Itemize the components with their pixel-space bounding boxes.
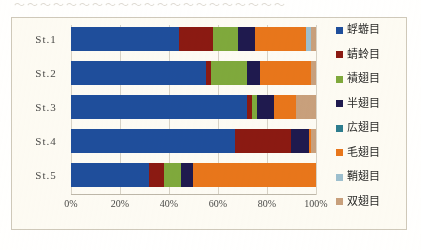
bar-segment bbox=[211, 61, 248, 85]
legend-item[interactable]: 半翅目 bbox=[336, 97, 380, 111]
stacked-bar-st-2 bbox=[71, 61, 316, 85]
plot-area bbox=[71, 25, 316, 195]
x-axis-labels: 0%20%40%60%80%100% bbox=[71, 198, 316, 214]
bar-row bbox=[71, 61, 316, 85]
bar-segment bbox=[274, 95, 296, 119]
bar-segment bbox=[291, 129, 308, 153]
bar-segment bbox=[193, 163, 316, 187]
bar-row bbox=[71, 129, 316, 153]
bar-segment bbox=[311, 27, 316, 51]
legend-item[interactable]: 蜻蛉目 bbox=[336, 48, 380, 62]
bar-segment bbox=[247, 61, 259, 85]
y-axis-labels: St.1St.2St.3St.4St.5 bbox=[20, 25, 72, 195]
y-axis-label-st-2: St.2 bbox=[20, 61, 72, 85]
x-axis-tick-40: 40% bbox=[160, 198, 178, 209]
bar-segment bbox=[260, 61, 311, 85]
legend-swatch-icon bbox=[336, 125, 343, 132]
legend-item[interactable]: 広翅目 bbox=[336, 121, 380, 135]
legend-label: 半翅目 bbox=[347, 98, 380, 110]
bar-segment bbox=[296, 95, 316, 119]
bar-segment bbox=[181, 163, 193, 187]
bar-segment bbox=[164, 163, 181, 187]
bar-segment bbox=[311, 61, 316, 85]
legend-label: 広翅目 bbox=[347, 122, 380, 134]
stacked-bar-st-4 bbox=[71, 129, 316, 153]
scan-ghost-line: 〜〜〜〜〜〜〜〜〜〜〜〜〜〜〜〜〜〜〜〜〜 bbox=[14, 0, 287, 12]
bar-row bbox=[71, 27, 316, 51]
legend-label: 蜻蛉目 bbox=[347, 49, 380, 61]
bar-segment bbox=[71, 95, 247, 119]
y-axis-label-st-5: St.5 bbox=[20, 163, 72, 187]
bar-row bbox=[71, 163, 316, 187]
legend-item[interactable]: 襀翅目 bbox=[336, 72, 380, 86]
bar-segment bbox=[71, 129, 235, 153]
legend-swatch-icon bbox=[336, 174, 343, 181]
bar-row bbox=[71, 95, 316, 119]
bar-segment bbox=[235, 129, 291, 153]
stacked-bar-st-3 bbox=[71, 95, 316, 119]
bar-segment bbox=[238, 27, 255, 51]
bar-segment bbox=[71, 61, 206, 85]
x-axis-tick-80: 80% bbox=[258, 198, 276, 209]
scan-artifact-top-text: 〜〜〜〜〜〜〜〜〜〜〜〜〜〜〜〜〜〜〜〜〜 bbox=[0, 0, 421, 18]
x-axis-tick-60: 60% bbox=[209, 198, 227, 209]
legend-swatch-icon bbox=[336, 51, 343, 58]
legend-label: 襀翅目 bbox=[347, 73, 380, 85]
gridline-100 bbox=[316, 25, 317, 195]
bar-segment bbox=[179, 27, 213, 51]
stacked-bar-st-5 bbox=[71, 163, 316, 187]
legend-label: 鞘翅目 bbox=[347, 171, 380, 183]
chart-container: St.1St.2St.3St.4St.5 0%20%40%60%80%100% … bbox=[11, 17, 407, 230]
legend-item[interactable]: 双翅目 bbox=[336, 195, 380, 209]
legend-item[interactable]: 蜉蝣目 bbox=[336, 23, 380, 37]
legend-label: 双翅目 bbox=[347, 196, 380, 208]
x-axis-tick-20: 20% bbox=[111, 198, 129, 209]
y-axis-label-st-4: St.4 bbox=[20, 129, 72, 153]
bar-segment bbox=[213, 27, 238, 51]
bar-segment bbox=[255, 27, 306, 51]
stacked-bar-st-1 bbox=[71, 27, 316, 51]
y-axis-label-st-3: St.3 bbox=[20, 95, 72, 119]
legend-swatch-icon bbox=[336, 149, 343, 156]
x-axis-tick-100: 100% bbox=[304, 198, 327, 209]
bar-segment bbox=[257, 95, 274, 119]
bar-segment bbox=[71, 27, 179, 51]
chart-legend: 蜉蝣目蜻蛉目襀翅目半翅目広翅目毛翅目鞘翅目双翅目 bbox=[336, 23, 406, 223]
x-axis-line bbox=[71, 194, 316, 195]
legend-swatch-icon bbox=[336, 198, 343, 205]
bar-segment bbox=[311, 129, 316, 153]
legend-item[interactable]: 毛翅目 bbox=[336, 146, 380, 160]
legend-swatch-icon bbox=[336, 27, 343, 34]
legend-label: 毛翅目 bbox=[347, 147, 380, 159]
y-axis-label-st-1: St.1 bbox=[20, 27, 72, 51]
legend-label: 蜉蝣目 bbox=[347, 24, 380, 36]
bar-segment bbox=[71, 163, 149, 187]
legend-item[interactable]: 鞘翅目 bbox=[336, 170, 380, 184]
x-axis-tick-0: 0% bbox=[64, 198, 77, 209]
legend-swatch-icon bbox=[336, 100, 343, 107]
bar-segment bbox=[149, 163, 164, 187]
legend-swatch-icon bbox=[336, 76, 343, 83]
